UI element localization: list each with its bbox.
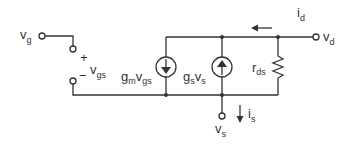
arrow-left-icon xyxy=(251,25,258,32)
arrow-down-icon xyxy=(237,116,244,123)
rds-label: rds xyxy=(252,60,266,77)
vgs-label: vgs xyxy=(90,62,107,80)
source-label: vs xyxy=(215,121,227,139)
id-label: id xyxy=(297,5,305,23)
gate-terminal xyxy=(39,33,45,39)
gate-label: vg xyxy=(20,27,32,45)
junction-dot xyxy=(220,35,224,39)
drain-terminal xyxy=(313,34,319,40)
gs-minus-terminal xyxy=(70,78,76,84)
gs-vs-label: gsvs xyxy=(183,69,206,86)
gm-vgs-label: gmvgs xyxy=(121,69,152,86)
junction-dot xyxy=(276,35,280,39)
minus-sign: − xyxy=(79,68,87,83)
arrow-up-icon xyxy=(217,60,227,67)
gs-plus-terminal xyxy=(70,46,76,52)
junction-dot xyxy=(220,93,224,97)
drain-label: vd xyxy=(323,29,335,47)
rds-resistor xyxy=(273,37,283,95)
plus-sign: + xyxy=(80,50,88,65)
source-terminal xyxy=(219,113,225,119)
gate-wire xyxy=(45,36,73,46)
junction-dot xyxy=(164,93,168,97)
is-label: is xyxy=(248,106,256,124)
bottom-wire xyxy=(73,84,278,95)
circuit-diagram: vg + − vgs gmvgs gsvs rds id vd is vs xyxy=(0,0,353,146)
arrow-down-icon xyxy=(161,67,171,74)
